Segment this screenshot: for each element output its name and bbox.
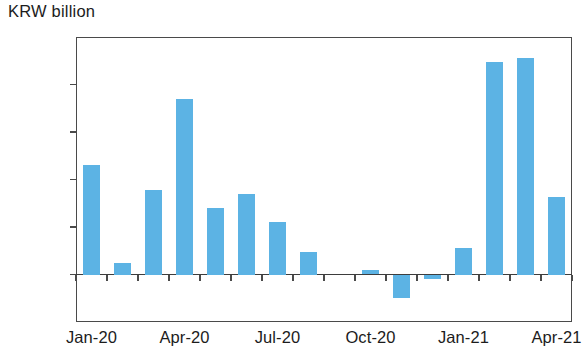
x-tick-mark	[292, 275, 293, 281]
x-tick-label: Apr-20	[159, 328, 209, 347]
x-tick-mark	[478, 275, 479, 281]
bar	[517, 58, 534, 274]
x-tick-label: Jan-20	[66, 328, 117, 347]
x-tick-mark	[354, 275, 355, 281]
x-tick-mark	[75, 275, 76, 281]
x-tick-mark	[447, 275, 448, 281]
bar	[486, 62, 503, 275]
x-tick-label: Jul-20	[255, 328, 301, 347]
x-tick-label: Oct-20	[345, 328, 395, 347]
bar	[145, 190, 162, 274]
bar	[207, 208, 224, 275]
bar	[176, 99, 193, 275]
x-tick-mark	[540, 275, 541, 281]
x-tick-mark	[385, 275, 386, 281]
y-tick-mark	[70, 179, 76, 180]
bar	[393, 275, 410, 299]
x-tick-mark	[261, 275, 262, 281]
bar	[362, 270, 379, 274]
bar	[238, 194, 255, 275]
x-tick-mark	[168, 275, 169, 281]
x-tick-mark	[416, 275, 417, 281]
x-tick-mark	[571, 275, 572, 281]
x-tick-mark	[199, 275, 200, 281]
plot-area: -2,00002,0004,0006,0008,00010,000 Jan-20…	[76, 37, 572, 322]
x-tick-mark	[137, 275, 138, 281]
bar	[548, 197, 565, 274]
y-tick-mark	[70, 131, 76, 132]
x-tick-mark	[106, 275, 107, 281]
y-axis-unit-label: KRW billion	[8, 2, 95, 21]
bar	[455, 248, 472, 274]
bar	[114, 263, 131, 275]
bar	[269, 222, 286, 274]
x-tick-mark	[509, 275, 510, 281]
x-tick-mark	[230, 275, 231, 281]
y-tick-mark	[70, 84, 76, 85]
bar	[424, 275, 441, 280]
bar	[300, 252, 317, 275]
bar	[83, 165, 100, 274]
x-tick-mark	[323, 275, 324, 281]
x-tick-label: Jan-21	[438, 328, 489, 347]
y-tick-mark	[70, 226, 76, 227]
x-tick-label: Apr-21	[531, 328, 581, 347]
